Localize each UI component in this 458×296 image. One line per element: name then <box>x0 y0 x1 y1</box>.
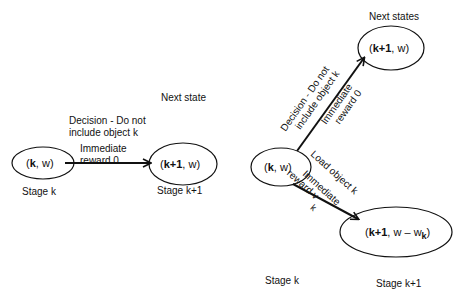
left-edge-decision-line2: include object k <box>69 127 139 138</box>
next-state-label: Next state <box>161 92 206 103</box>
next-states-label: Next states <box>369 11 419 22</box>
left-edge-reward-line2: reward 0 <box>80 155 119 166</box>
right-lower-target-label: (k+1, w – wk) <box>365 226 430 241</box>
right-upper-target-label: (k+1, w) <box>369 42 409 54</box>
left-diagram: (k, w) (k+1, w) Next state Decision - Do… <box>12 92 217 197</box>
left-stage-k1-label: Stage k+1 <box>157 185 203 196</box>
right-stage-k-label: Stage k <box>265 275 300 286</box>
right-stage-k1-label: Stage k+1 <box>376 278 422 289</box>
left-edge-decision-line1: Decision - Do not <box>69 115 146 126</box>
right-diagram: Next states (k, w) (k+1, w) (k+1, w – wk… <box>251 11 452 289</box>
right-source-node-label: (k, w) <box>264 161 292 173</box>
decision-diagram-canvas: (k, w) (k+1, w) Next state Decision - Do… <box>0 0 458 296</box>
left-source-node-label: (k, w) <box>26 157 54 169</box>
left-stage-k-label: Stage k <box>22 186 57 197</box>
left-edge-reward-line1: Immediate <box>80 143 127 154</box>
left-target-node-label: (k+1, w) <box>160 158 200 170</box>
